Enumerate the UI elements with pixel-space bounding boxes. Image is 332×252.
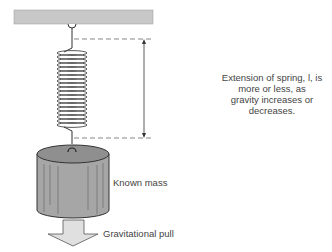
extension-label-line2: gravity increases or decreases. [218, 94, 326, 116]
gravitational-pull-arrow [48, 220, 98, 246]
gravitational-pull-label: Gravitational pull [103, 228, 174, 239]
spring-coil [57, 51, 87, 128]
ceiling-hook [68, 24, 76, 28]
known-mass-cylinder [37, 145, 109, 218]
extension-label: Extension of spring, l, is more or less,… [218, 72, 326, 116]
spring-diagram [0, 0, 332, 252]
extension-label-line1: Extension of spring, l, is more or less,… [218, 72, 326, 94]
known-mass-label: Known mass [113, 177, 167, 188]
ceiling-bar [14, 10, 153, 24]
